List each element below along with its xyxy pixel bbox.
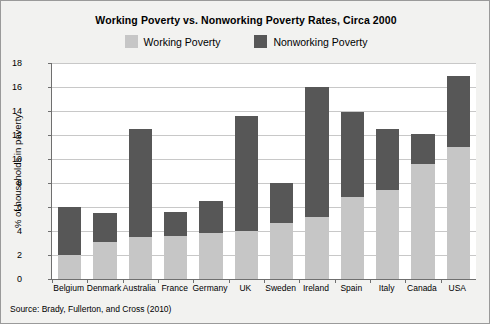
x-axis-tick-label: Belgium: [51, 283, 86, 293]
bar-segment-working-poverty: [270, 223, 293, 279]
bar-slot: [370, 63, 405, 279]
legend-swatch-nonworking-poverty: [254, 35, 267, 48]
bar-segment-working-poverty: [376, 190, 399, 279]
stacked-bar[interactable]: [270, 183, 293, 279]
legend-label-nonworking-poverty: Nonworking Poverty: [273, 36, 367, 48]
bar-segment-nonworking-poverty: [305, 87, 328, 217]
bar-slot: [158, 63, 193, 279]
bar-segment-working-poverty: [129, 237, 152, 279]
y-axis-tick-label: 12: [0, 130, 22, 140]
bar-segment-working-poverty: [164, 236, 187, 279]
source-note: Source: Brady, Fullerton, and Cross (201…: [10, 304, 171, 314]
bar-segment-working-poverty: [93, 242, 116, 279]
bar-segment-working-poverty: [341, 197, 364, 279]
bar-segment-nonworking-poverty: [93, 213, 116, 242]
bar-segment-working-poverty: [235, 231, 258, 279]
x-axis-tick-label: Spain: [334, 283, 369, 293]
x-axis-tick-label: Italy: [369, 283, 404, 293]
stacked-bar[interactable]: [305, 87, 328, 279]
bar-slot: [123, 63, 158, 279]
bar-segment-nonworking-poverty: [199, 201, 222, 233]
bar-segment-working-poverty: [447, 147, 470, 279]
bar-slot: [441, 63, 476, 279]
stacked-bar[interactable]: [93, 213, 116, 279]
plot-wrapper: % of households in poverty 0246810121416…: [51, 63, 475, 279]
stacked-bar[interactable]: [411, 134, 434, 279]
legend-item-working-poverty: Working Poverty: [125, 35, 221, 48]
legend-swatch-working-poverty: [125, 35, 138, 48]
y-axis-tick-label: 18: [0, 58, 22, 68]
x-axis-tick-label: UK: [228, 283, 263, 293]
stacked-bar[interactable]: [341, 112, 364, 279]
bar-slot: [335, 63, 370, 279]
stacked-bar[interactable]: [164, 212, 187, 279]
bar-series-container: [52, 63, 476, 279]
bar-slot: [405, 63, 440, 279]
bar-slot: [229, 63, 264, 279]
x-axis-tick-label: Australia: [122, 283, 157, 293]
stacked-bar[interactable]: [376, 129, 399, 279]
stacked-bar[interactable]: [447, 76, 470, 279]
y-axis-tick-label: 2: [0, 250, 22, 260]
bar-slot: [299, 63, 334, 279]
stacked-bar[interactable]: [129, 129, 152, 279]
legend-label-working-poverty: Working Poverty: [144, 36, 221, 48]
chart-figure: Working Poverty vs. Nonworking Poverty R…: [0, 0, 490, 324]
y-axis-tick-label: 16: [0, 82, 22, 92]
y-axis-tick-label: 8: [0, 178, 22, 188]
bar-segment-nonworking-poverty: [129, 129, 152, 237]
bar-segment-working-poverty: [305, 217, 328, 279]
x-axis-tick-label: Ireland: [298, 283, 333, 293]
legend-item-nonworking-poverty: Nonworking Poverty: [254, 35, 367, 48]
chart-legend: Working Poverty Nonworking Poverty: [1, 35, 490, 48]
x-axis-tick-label: Canada: [404, 283, 439, 293]
bar-slot: [52, 63, 87, 279]
bar-segment-nonworking-poverty: [447, 76, 470, 147]
bar-segment-nonworking-poverty: [235, 116, 258, 231]
y-axis-tick-label: 14: [0, 106, 22, 116]
bar-segment-working-poverty: [58, 255, 81, 279]
plot-area: 024681012141618: [51, 63, 476, 280]
x-axis-tick-label: USA: [440, 283, 475, 293]
x-axis-tick-label: Germany: [192, 283, 227, 293]
x-axis-tick-label: France: [157, 283, 192, 293]
bar-segment-working-poverty: [199, 233, 222, 279]
stacked-bar[interactable]: [235, 116, 258, 279]
x-axis-tick-label: Sweden: [263, 283, 298, 293]
x-axis-tick-label: Denmark: [86, 283, 121, 293]
bar-segment-nonworking-poverty: [411, 134, 434, 164]
y-axis-tick-label: 6: [0, 202, 22, 212]
y-axis-tick-label: 10: [0, 154, 22, 164]
y-axis-tick-label: 0: [0, 274, 22, 284]
bar-segment-nonworking-poverty: [341, 112, 364, 197]
bar-segment-nonworking-poverty: [376, 129, 399, 190]
bar-segment-nonworking-poverty: [58, 207, 81, 255]
bar-slot: [87, 63, 122, 279]
stacked-bar[interactable]: [58, 207, 81, 279]
y-axis-tick-label: 4: [0, 226, 22, 236]
bar-slot: [193, 63, 228, 279]
stacked-bar[interactable]: [199, 201, 222, 279]
bar-segment-working-poverty: [411, 164, 434, 279]
bar-segment-nonworking-poverty: [270, 183, 293, 223]
chart-title: Working Poverty vs. Nonworking Poverty R…: [1, 14, 490, 26]
bar-slot: [264, 63, 299, 279]
x-axis-labels: BelgiumDenmarkAustraliaFranceGermanyUKSw…: [51, 283, 475, 293]
bar-segment-nonworking-poverty: [164, 212, 187, 236]
